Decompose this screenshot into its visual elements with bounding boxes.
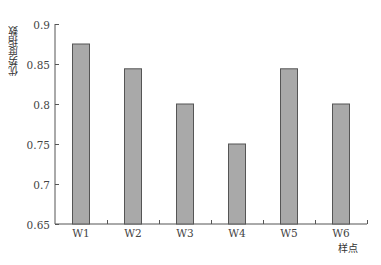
x-tick-label: W6 — [332, 227, 350, 239]
y-tick-label: 0.75 — [27, 139, 50, 151]
x-tick-label: W4 — [228, 227, 246, 239]
y-axis-label: 优势度指数 — [6, 26, 30, 76]
x-axis-label: 样点 — [338, 240, 358, 255]
bar-w5 — [281, 69, 298, 224]
y-tick-label: 0.65 — [27, 219, 50, 231]
y-tick-label: 0.9 — [33, 19, 50, 31]
bar-w1 — [73, 44, 90, 224]
bar-w3 — [177, 104, 194, 224]
bar-w2 — [125, 69, 142, 224]
chart-canvas: 0.650.70.750.80.850.9W1W2W3W4W5W6 — [0, 0, 381, 265]
x-tick-label: W5 — [280, 227, 297, 239]
y-tick-label: 0.7 — [33, 179, 50, 191]
y-tick-label: 0.8 — [33, 99, 50, 111]
bar-w6 — [333, 104, 350, 224]
x-tick-label: W2 — [124, 227, 141, 239]
bar-w4 — [229, 144, 246, 224]
x-tick-label: W3 — [176, 227, 193, 239]
x-tick-label: W1 — [72, 227, 89, 239]
y-tick-label: 0.85 — [27, 59, 50, 71]
